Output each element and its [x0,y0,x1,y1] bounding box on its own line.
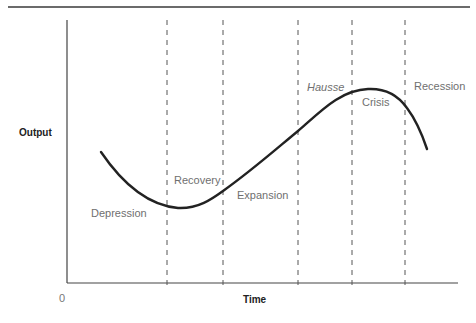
x-axis-title: Time [243,294,266,305]
phase-label-crisis: Crisis [362,96,390,108]
phase-label-recovery: Recovery [174,174,220,186]
phase-label-recession: Recession [414,80,465,92]
origin-label: 0 [59,292,65,304]
business-cycle-plot [0,0,476,323]
phase-label-depression: Depression [91,207,147,219]
y-axis-title: Output [19,127,52,138]
phase-label-hausse: Hausse [307,81,344,93]
phase-label-expansion: Expansion [237,189,288,201]
phase-boundaries [167,20,405,287]
